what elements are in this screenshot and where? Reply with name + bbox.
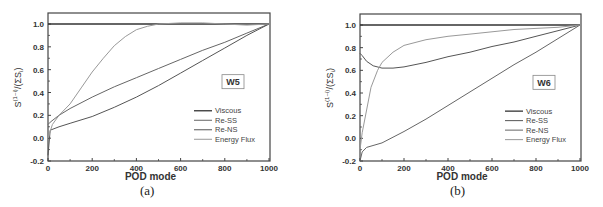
chart-panel-a: 02004006008001000-0.20.00.20.40.60.81.0P… (0, 0, 300, 207)
x-tick-label: 200 (397, 164, 411, 173)
legend-label: Re-SS (526, 116, 548, 125)
legend-label: Re-NS (215, 125, 238, 134)
y-axis-label: S(1~i) /(ΣSi) (12, 68, 24, 108)
y-tick-label: 1.0 (33, 20, 45, 29)
legend-label: Energy Flux (215, 135, 255, 144)
y-tick-label: 0.8 (345, 44, 357, 53)
annotation-label: W6 (537, 78, 551, 88)
panel-caption-a: (a) (140, 183, 154, 199)
legend-label: Re-SS (215, 116, 237, 125)
series-line-re-ss (360, 25, 580, 68)
y-tick-label: 0.4 (345, 89, 357, 98)
legend-label: Viscous (215, 106, 241, 115)
x-tick-label: 1000 (571, 164, 589, 173)
legend-label: Energy Flux (526, 135, 566, 144)
y-tick-label: 0.2 (33, 111, 45, 120)
panel-caption-b: (b) (450, 183, 465, 199)
chart-b-svg: 02004006008001000-0.20.00.20.40.60.81.0P… (300, 0, 603, 207)
chart-panel-b: 02004006008001000-0.20.00.20.40.60.81.0P… (300, 0, 603, 207)
legend-label: Viscous (526, 107, 552, 116)
y-tick-label: 0.0 (345, 134, 357, 143)
x-tick-label: 200 (86, 164, 100, 173)
x-axis-label: POD mode (436, 171, 488, 182)
x-tick-label: 800 (529, 164, 543, 173)
x-tick-label: 1000 (260, 164, 278, 173)
x-tick-label: 0 (358, 164, 363, 173)
y-tick-label: 0.2 (345, 112, 357, 121)
annotation-label: W5 (226, 77, 240, 87)
y-tick-label: 0.6 (345, 66, 357, 75)
plot-area-a: 02004006008001000-0.20.00.20.40.60.81.0P… (12, 13, 278, 182)
y-tick-label: 0.8 (33, 43, 45, 52)
x-tick-label: 800 (218, 164, 232, 173)
y-tick-label: -0.2 (342, 157, 356, 166)
y-tick-label: 0.0 (33, 134, 45, 143)
y-tick-label: 0.6 (33, 66, 45, 75)
plot-area-b: 02004006008001000-0.20.00.20.40.60.81.0P… (324, 14, 589, 182)
chart-a-svg: 02004006008001000-0.20.00.20.40.60.81.0P… (0, 0, 300, 207)
y-tick-label: 1.0 (345, 21, 357, 30)
y-tick-label: 0.4 (33, 89, 45, 98)
y-axis-label: S(1~i) /(ΣSi) (324, 68, 336, 108)
x-axis-label: POD mode (125, 171, 177, 182)
y-tick-label: -0.2 (30, 157, 44, 166)
x-tick-label: 0 (46, 164, 51, 173)
legend-label: Re-NS (526, 126, 549, 135)
